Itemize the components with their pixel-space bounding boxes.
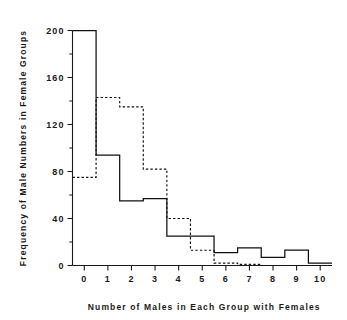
y-tick-label: 160	[46, 73, 64, 83]
y-tick-label: 0	[58, 261, 64, 271]
x-tick-label: 4	[176, 274, 182, 284]
chart-canvas: 20016012080400 012345678910 Number of Ma…	[0, 0, 347, 320]
y-tick-label: 200	[46, 26, 64, 36]
x-tick-label: 2	[128, 274, 134, 284]
y-axis-title: Frequency of Male Numbers in Female Grou…	[18, 30, 28, 266]
x-tick-label: 3	[152, 274, 158, 284]
x-tick-label: 5	[199, 274, 205, 284]
x-tick-label: 7	[246, 274, 252, 284]
y-axis-tick-labels: 20016012080400	[46, 26, 64, 271]
x-axis-title: Number of Males in Each Group with Femal…	[88, 302, 321, 312]
series-solid-step-line	[73, 31, 333, 264]
series-dashed-step-line	[73, 97, 333, 265]
y-tick-label: 80	[52, 167, 64, 177]
x-tick-label: 10	[314, 274, 326, 284]
y-axis-tick-marks	[68, 31, 73, 266]
x-axis-tick-marks	[84, 266, 320, 271]
x-tick-label: 1	[105, 274, 111, 284]
y-tick-label: 40	[52, 214, 64, 224]
x-tick-label: 0	[81, 274, 87, 284]
x-axis-tick-labels: 012345678910	[81, 274, 326, 284]
y-tick-label: 120	[46, 120, 64, 130]
x-tick-label: 6	[223, 274, 229, 284]
x-tick-label: 8	[270, 274, 276, 284]
x-tick-label: 9	[294, 274, 300, 284]
histogram-figure: 20016012080400 012345678910 Number of Ma…	[0, 0, 347, 320]
